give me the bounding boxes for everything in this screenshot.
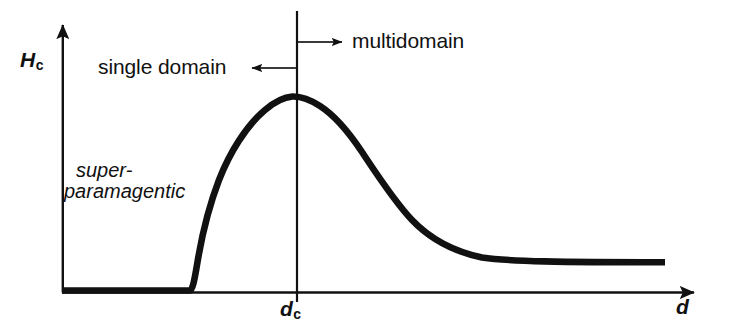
superparamagnetic-label: super-paramagentic [76,160,185,202]
superparamagnetic-label-line2: paramagentic [64,181,185,202]
y-axis-label-subscript: c [36,57,44,73]
x-axis-label: d [676,296,689,318]
critical-diameter-label: dc [280,298,301,322]
superparamagnetic-label-line1: super- [76,159,132,181]
coercivity-vs-diameter-figure: Hc single domain multidomain super-param… [0,0,732,335]
single-domain-label: single domain [98,56,226,78]
y-axis-label: Hc [20,49,43,73]
multidomain-label: multidomain [352,30,464,52]
critical-diameter-label-subscript: c [293,306,301,322]
